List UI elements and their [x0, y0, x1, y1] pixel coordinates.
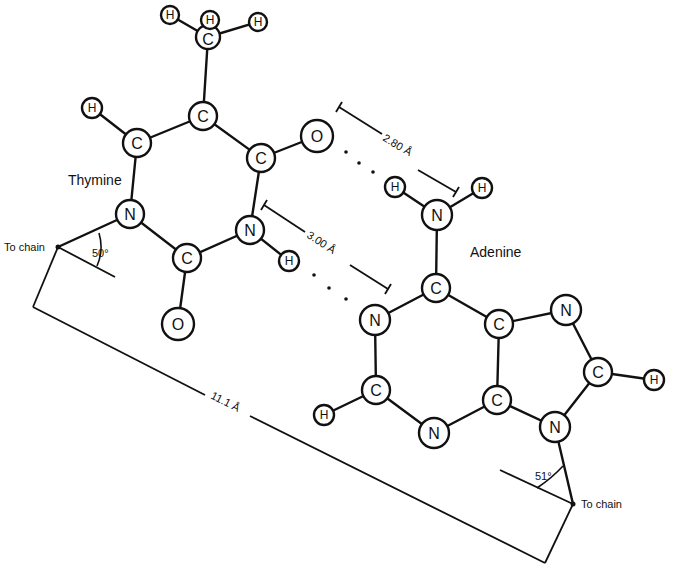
svg-text:H: H [206, 13, 215, 27]
atom-adenine-h8: H [644, 370, 664, 390]
atom-thymine-h-methyl-3: H [249, 13, 267, 31]
adenine-label: Adenine [470, 244, 522, 260]
atom-adenine-h6b: H [472, 178, 492, 198]
adenine-bonds [324, 187, 654, 504]
svg-text:C: C [430, 280, 442, 297]
atom-adenine-n9: N [540, 412, 570, 442]
distance-11-1-label: 11.1 Å [209, 389, 243, 414]
atom-adenine-c8: C [584, 358, 612, 386]
adenine-angle-label: 51° [535, 470, 552, 482]
svg-text:C: C [255, 150, 267, 167]
atom-thymine-c5: C [189, 102, 217, 130]
svg-text:N: N [431, 207, 443, 224]
thymine-label: Thymine [68, 172, 122, 188]
svg-text:H: H [88, 101, 97, 115]
svg-text:O: O [172, 316, 184, 333]
atom-thymine-o2: O [162, 308, 194, 340]
svg-text:C: C [197, 108, 209, 125]
svg-text:H: H [320, 408, 329, 422]
distance-3-00: 3.00 Å [261, 200, 391, 294]
thymine-bonds [58, 15, 317, 324]
atom-adenine-h2: H [314, 405, 334, 425]
atom-adenine-n7: N [551, 295, 581, 325]
distance-3-00-label: 3.00 Å [305, 229, 339, 257]
svg-text:C: C [491, 392, 503, 409]
svg-text:N: N [428, 425, 440, 442]
svg-text:C: C [202, 31, 214, 48]
hydrogen-bond-dots-1 [344, 150, 375, 174]
svg-text:H: H [254, 15, 263, 29]
svg-text:H: H [285, 254, 294, 268]
distance-2-80-label: 2.80 Å [381, 131, 415, 158]
atom-adenine-c5: C [485, 310, 513, 338]
atom-thymine-h6: H [82, 98, 102, 118]
atom-adenine-n1: N [360, 305, 390, 335]
atom-thymine-h-methyl-2: H [201, 11, 219, 29]
atom-adenine-c4: C [483, 386, 511, 414]
thymine-angle-marker: 50° To chain [4, 233, 115, 277]
svg-text:N: N [369, 312, 381, 329]
atom-thymine-n1: N [116, 200, 144, 228]
svg-text:H: H [650, 373, 659, 387]
atom-adenine-n3: N [419, 418, 449, 448]
thymine-angle-label: 50° [92, 247, 109, 259]
atom-adenine-c2: C [362, 376, 390, 404]
adenine-atoms: H H N C N C H N C C N C H N [314, 177, 664, 448]
svg-text:C: C [493, 316, 505, 333]
svg-text:O: O [311, 128, 323, 145]
svg-text:H: H [166, 8, 175, 22]
atom-thymine-c2: C [173, 244, 201, 272]
atom-thymine-h-methyl-1: H [161, 6, 179, 24]
svg-text:C: C [370, 382, 382, 399]
svg-text:N: N [124, 206, 136, 223]
hydrogen-bond-dots-2 [312, 273, 348, 301]
svg-text:N: N [549, 419, 561, 436]
adenine-angle-marker: 51° To chain [500, 466, 622, 510]
svg-text:N: N [560, 302, 572, 319]
atom-adenine-h6a: H [385, 177, 405, 197]
atom-thymine-c4: C [247, 144, 275, 172]
atom-adenine-n6: N [422, 200, 452, 230]
svg-text:C: C [131, 135, 143, 152]
svg-text:N: N [244, 222, 256, 239]
svg-text:C: C [181, 250, 193, 267]
svg-text:C: C [592, 364, 604, 381]
base-pair-diagram: 50° To chain 51° To chain [0, 0, 676, 577]
atom-thymine-n3: N [236, 216, 264, 244]
atom-adenine-c6: C [422, 274, 450, 302]
adenine-chain-label: To chain [581, 498, 622, 510]
atom-thymine-c6: C [123, 129, 151, 157]
svg-text:H: H [391, 180, 400, 194]
atom-thymine-o4: O [301, 120, 333, 152]
thymine-chain-label: To chain [4, 241, 45, 253]
atom-thymine-h3: H [279, 251, 299, 271]
svg-text:H: H [478, 181, 487, 195]
